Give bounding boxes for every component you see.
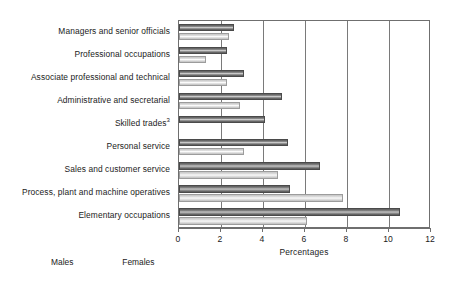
- bar-male: [179, 139, 288, 146]
- legend-item-males[interactable]: Males: [26, 257, 73, 267]
- category-label: Administrative and secretarial: [0, 96, 170, 105]
- chart-legend: MalesFemales: [26, 256, 172, 268]
- legend-label: Males: [51, 257, 73, 267]
- x-axis-tick-label: 2: [218, 234, 223, 244]
- bar-row: [179, 137, 431, 160]
- category-label: Professional occupations: [0, 50, 170, 59]
- bar-row: [179, 183, 431, 206]
- x-axis-title: Percentages: [178, 247, 430, 257]
- bar-male: [179, 116, 265, 123]
- bar-female: [179, 102, 240, 109]
- bar-female: [179, 33, 229, 40]
- category-label: Sales and customer service: [0, 165, 170, 174]
- legend-swatch-females: [97, 258, 118, 266]
- bar-male: [179, 24, 234, 31]
- bar-row: [179, 206, 431, 229]
- bar-male: [179, 208, 400, 215]
- x-axis-tick: [304, 228, 305, 232]
- legend-label: Females: [122, 257, 154, 267]
- x-axis: 024681012: [178, 228, 430, 229]
- chart-container: Managers and senior officialsProfessiona…: [0, 0, 459, 284]
- bar-row: [179, 160, 431, 183]
- x-axis-tick: [430, 228, 431, 232]
- bar-female: [179, 171, 278, 178]
- category-label: Associate professional and technical: [0, 73, 170, 82]
- category-label: Managers and senior officials: [0, 27, 170, 36]
- bar-row: [179, 90, 431, 113]
- x-axis-tick: [178, 228, 179, 232]
- x-axis-tick: [388, 228, 389, 232]
- x-axis-tick: [262, 228, 263, 232]
- category-label: Skilled trades3: [0, 119, 170, 128]
- bar-row: [179, 113, 431, 136]
- bar-male: [179, 93, 282, 100]
- x-axis-tick-label: 10: [383, 234, 393, 244]
- plot-area: [178, 20, 430, 228]
- bar-male: [179, 185, 290, 192]
- x-axis-tick: [346, 228, 347, 232]
- x-axis-tick-label: 8: [344, 234, 349, 244]
- bar-female: [179, 56, 206, 63]
- legend-item-females[interactable]: Females: [97, 257, 154, 267]
- x-axis-tick-label: 0: [176, 234, 181, 244]
- category-label: Personal service: [0, 142, 170, 151]
- category-axis-labels: Managers and senior officialsProfessiona…: [0, 20, 174, 228]
- x-axis-tick-label: 12: [425, 234, 435, 244]
- bar-female: [179, 217, 307, 224]
- category-footnote-marker: 3: [167, 117, 170, 123]
- bar-female: [179, 148, 244, 155]
- bar-male: [179, 162, 320, 169]
- x-axis-tick-label: 4: [260, 234, 265, 244]
- bar-female: [179, 194, 343, 201]
- bar-male: [179, 70, 244, 77]
- bar-male: [179, 47, 227, 54]
- bar-row: [179, 67, 431, 90]
- bar-female: [179, 79, 227, 86]
- bar-row: [179, 21, 431, 44]
- category-label: Elementary occupations: [0, 211, 170, 220]
- category-label: Process, plant and machine operatives: [0, 188, 170, 197]
- legend-swatch-males: [26, 258, 47, 266]
- bar-row: [179, 44, 431, 67]
- x-axis-tick-label: 6: [302, 234, 307, 244]
- x-axis-tick: [220, 228, 221, 232]
